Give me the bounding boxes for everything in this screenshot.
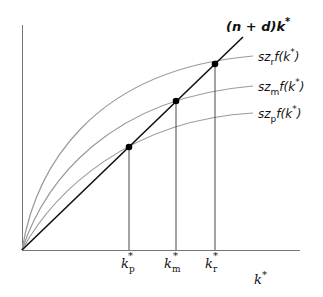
curve-sz-p xyxy=(22,113,253,250)
curve-label-p: szpf(k*) xyxy=(258,104,301,124)
curve-label-m: szmf(k*) xyxy=(258,77,304,97)
kstar-sup-r: * xyxy=(213,250,218,261)
curve-label-r: szrf(k*) xyxy=(258,47,299,67)
curve-sz-m xyxy=(22,86,253,250)
kstar-sup-p: * xyxy=(128,250,133,261)
solow-diagram: (n + d)k* szrf(k*) szmf(k*) szpf(k*) kp … xyxy=(0,0,323,297)
steady-state-dot-m xyxy=(173,98,180,105)
x-axis-label: k* xyxy=(254,269,267,287)
steady-state-dot-p xyxy=(126,144,133,151)
breakeven-label: (n + d)k* xyxy=(226,16,291,34)
steady-state-dot-r xyxy=(212,61,219,68)
curve-sz-r xyxy=(22,56,253,250)
breakeven-line xyxy=(22,37,243,250)
kstar-sup-m: * xyxy=(173,250,178,261)
